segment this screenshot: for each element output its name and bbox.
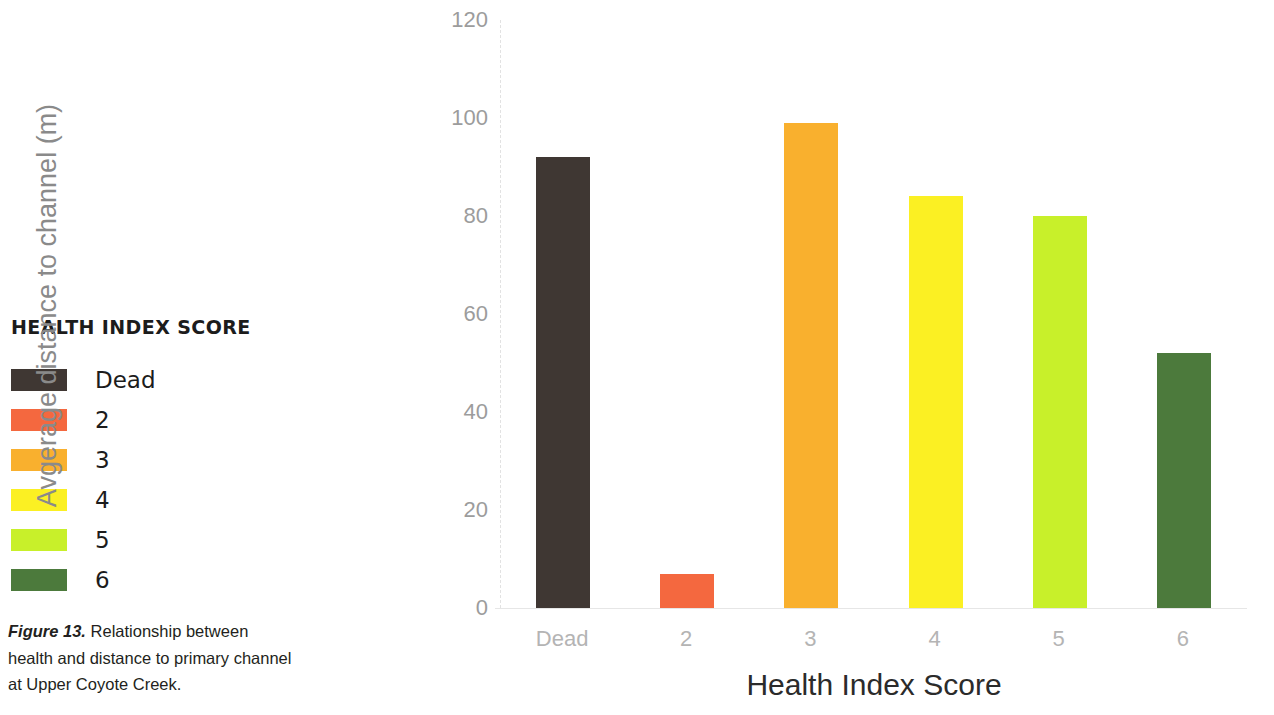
y-axis-tick-label: 40: [418, 399, 488, 425]
y-axis-title: Avgerage distance to channel (m): [32, 16, 63, 596]
x-axis-line: [495, 608, 1247, 609]
y-axis-tick-label: 100: [418, 105, 488, 131]
bar[interactable]: [536, 157, 590, 608]
bar-slot: [749, 20, 873, 608]
x-axis-tick-label: Dead: [500, 626, 624, 652]
y-axis-tick-label: 20: [418, 497, 488, 523]
x-axis-tick-label: 3: [748, 626, 872, 652]
bar-slot: [625, 20, 749, 608]
y-axis-tick-label: 0: [418, 595, 488, 621]
bar[interactable]: [909, 196, 963, 608]
y-axis-tick-label: 80: [418, 203, 488, 229]
plot-area: [500, 20, 1245, 608]
bar[interactable]: [1033, 216, 1087, 608]
bar[interactable]: [660, 574, 714, 608]
bar-chart: Avgerage distance to channel (m) 0204060…: [0, 0, 1274, 715]
x-axis-tick-label: 5: [997, 626, 1121, 652]
bar[interactable]: [1157, 353, 1211, 608]
bar-slot: [1122, 20, 1246, 608]
bar-slot: [998, 20, 1122, 608]
bar-slot: [501, 20, 625, 608]
x-axis-tick-label: 4: [873, 626, 997, 652]
x-axis-title: Health Index Score: [500, 668, 1248, 702]
y-axis-tick-label: 120: [418, 7, 488, 33]
y-axis-tick-labels: 020406080100120: [412, 0, 488, 715]
bar[interactable]: [784, 123, 838, 608]
x-axis-tick-label: 2: [624, 626, 748, 652]
y-axis-tick-label: 60: [418, 301, 488, 327]
bar-slot: [874, 20, 998, 608]
x-axis-tick-label: 6: [1121, 626, 1245, 652]
